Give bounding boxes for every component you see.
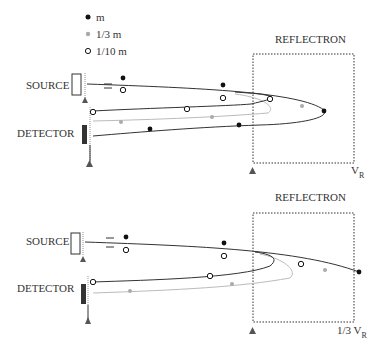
detector-label: DETECTOR bbox=[17, 282, 75, 294]
detector-plate-icon bbox=[81, 284, 86, 304]
panel-third-voltage: SOURCE DETECTOR REFLECTRON 1/3 VR bbox=[17, 191, 368, 340]
reflectron-diagram: m 1/3 m 1/10 m SOURCE DETECTOR REFLECTRO… bbox=[0, 0, 379, 355]
ground-icon bbox=[249, 167, 256, 174]
voltage-label: 1/3 VR bbox=[337, 324, 368, 340]
ground-icon bbox=[82, 97, 88, 103]
legend-label-tenth: 1/10 m bbox=[96, 45, 127, 57]
source-box-icon bbox=[72, 74, 81, 95]
ground-icon bbox=[80, 256, 86, 262]
legend-mass-m-icon bbox=[86, 15, 91, 20]
voltage-label: VR bbox=[351, 164, 365, 180]
ground-icon bbox=[86, 160, 93, 167]
ground-icon bbox=[85, 317, 91, 324]
trajectory-tenth bbox=[93, 252, 274, 282]
legend-mass-third-icon bbox=[86, 32, 90, 36]
legend-label-third: 1/3 m bbox=[96, 28, 122, 40]
legend-label-m: m bbox=[96, 11, 105, 23]
detector-label: DETECTOR bbox=[17, 127, 75, 139]
trajectory-tenth bbox=[93, 92, 272, 111]
legend: m 1/3 m 1/10 m bbox=[85, 11, 127, 57]
source-label: SOURCE bbox=[26, 79, 70, 91]
ground-icon bbox=[249, 327, 256, 334]
reflectron-box bbox=[253, 54, 354, 163]
legend-mass-tenth-icon bbox=[85, 48, 90, 53]
panel-full-voltage: SOURCE DETECTOR REFLECTRON VR bbox=[17, 33, 365, 180]
source-box-icon bbox=[71, 233, 80, 254]
reflectron-label: REFLECTRON bbox=[275, 33, 346, 45]
reflectron-box bbox=[253, 213, 354, 322]
trajectory-third bbox=[93, 254, 292, 293]
reflectron-label: REFLECTRON bbox=[275, 191, 346, 203]
source-label: SOURCE bbox=[26, 235, 70, 247]
detector-plate-icon bbox=[82, 125, 87, 144]
